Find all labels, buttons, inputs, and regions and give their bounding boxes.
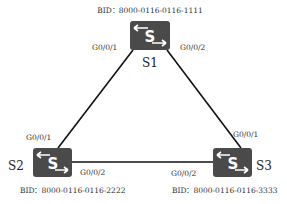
s2-port-g0-0-1: G0/0/1 [26,133,51,142]
stp-topology-diagram: S BID：8000-0116-0116-1111 S1 G0/0/1 G0/0… [0,0,287,204]
svg-text:S: S [48,155,59,173]
s3-name-label: S3 [256,159,272,173]
switch-icon: S [213,148,252,177]
s3-port-g0-0-1: G0/0/1 [233,130,258,139]
switch-s3[interactable]: S [213,148,252,177]
s1-name-label: S1 [142,56,158,70]
svg-text:S: S [228,155,239,173]
link-s1-s3 [167,50,241,148]
link-s1-s2 [58,50,133,148]
s3-port-g0-0-2: G0/0/2 [171,169,197,178]
s1-port-g0-0-1: G0/0/1 [92,43,117,52]
svg-text:S: S [145,28,156,46]
switch-s2[interactable]: S [33,148,72,177]
s3-bid-label: BID：8000-0116-0116-3333 [172,186,278,195]
s2-name-label: S2 [8,159,24,173]
switch-icon: S [33,148,72,177]
s2-bid-label: BID：8000-0116-0116-2222 [20,186,126,195]
s1-bid-label: BID：8000-0116-0116-1111 [97,6,202,15]
s2-port-g0-0-2: G0/0/2 [80,168,106,177]
switch-icon: S [130,21,170,50]
switch-s1[interactable]: S [130,21,170,50]
s1-port-g0-0-2: G0/0/2 [180,43,206,52]
